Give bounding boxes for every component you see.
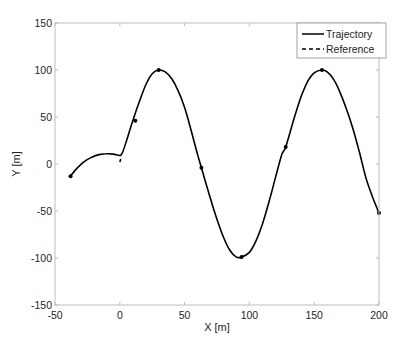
arrow-marker-icon [69,174,73,178]
x-tick-label: 150 [305,309,323,321]
trajectory-chart: -50050100150200-150-100-50050100150 X [m… [0,0,401,353]
x-tick-label: 50 [179,309,191,321]
x-axis-label: X [m] [204,321,230,333]
y-axis-label: Y [m] [10,151,22,176]
arrow-marker-icon [320,68,324,72]
y-tick-label: -50 [37,205,52,217]
legend: Trajectory Reference [297,23,386,58]
legend-label-reference: Reference [326,43,375,55]
legend-label-trajectory: Trajectory [326,28,373,40]
plot-background [55,23,379,305]
arrow-marker-icon [157,68,161,72]
x-tick-label: 0 [117,309,123,321]
arrow-marker-icon [240,255,244,259]
arrow-marker-icon [199,166,203,170]
y-tick-label: 0 [46,158,52,170]
x-tick-label: 200 [370,309,388,321]
y-tick-label: -100 [31,252,52,264]
arrow-marker-icon [133,119,137,123]
y-tick-label: -150 [31,299,52,311]
y-tick-label: 50 [40,111,52,123]
y-tick-label: 100 [34,64,52,76]
arrow-marker-icon [284,145,288,149]
y-tick-label: 150 [34,17,52,29]
x-tick-label: 100 [241,309,259,321]
